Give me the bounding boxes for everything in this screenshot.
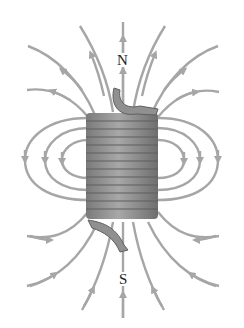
south-pole-label: S [118,272,128,286]
north-pole-label: N [116,53,129,67]
field-lines-bottom [27,212,219,318]
